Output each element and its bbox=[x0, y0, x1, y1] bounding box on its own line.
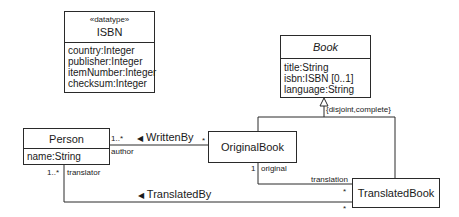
translatedby-person-role: translator bbox=[67, 168, 100, 177]
original-multiplicity: 1 bbox=[251, 164, 255, 173]
writtenby-label: WrittenBy bbox=[146, 131, 193, 143]
attribute: itemNumber:Integer bbox=[68, 67, 152, 78]
class-translatedbook-name: TranslatedBook bbox=[353, 179, 439, 200]
writtenby-originalbook-multiplicity: * bbox=[202, 136, 205, 145]
translation-multiplicity: * bbox=[343, 187, 346, 196]
class-translatedbook[interactable]: TranslatedBook bbox=[352, 178, 440, 208]
class-person-name: Person bbox=[24, 129, 109, 148]
attribute: title:String bbox=[284, 62, 368, 73]
writtenby-person-multiplicity: 1..* bbox=[111, 134, 123, 143]
class-originalbook-name: OriginalBook bbox=[209, 132, 296, 154]
attribute: isbn:ISBN [0..1] bbox=[284, 73, 368, 84]
class-isbn[interactable]: «datatype» ISBN country:Integer publishe… bbox=[64, 11, 155, 93]
class-person[interactable]: Person name:String bbox=[23, 128, 110, 165]
attribute: country:Integer bbox=[68, 45, 152, 56]
writtenby-association[interactable]: ◀ WrittenBy bbox=[137, 131, 194, 145]
original-role: original bbox=[261, 164, 287, 173]
generalization-constraint: {disjoint,complete} bbox=[326, 105, 391, 114]
class-originalbook[interactable]: OriginalBook bbox=[208, 131, 297, 163]
attribute: language:String bbox=[284, 84, 368, 95]
translatedby-translatedbook-multiplicity: * bbox=[343, 204, 346, 213]
class-isbn-attributes: country:Integer publisher:Integer itemNu… bbox=[65, 42, 154, 91]
attribute: name:String bbox=[27, 151, 107, 162]
attribute: publisher:Integer bbox=[68, 56, 152, 67]
attribute: checksum:Integer bbox=[68, 78, 152, 89]
class-book-attributes: title:String isbn:ISBN [0..1] language:S… bbox=[281, 58, 370, 97]
writtenby-person-role: author bbox=[111, 147, 134, 156]
translation-role: translation bbox=[311, 175, 348, 184]
class-book-name: Book bbox=[281, 36, 370, 58]
direction-arrow-icon: ◀ bbox=[137, 134, 143, 143]
class-person-attributes: name:String bbox=[24, 148, 109, 164]
class-isbn-stereotype: «datatype» bbox=[65, 12, 154, 25]
direction-arrow-icon: ◀ bbox=[138, 191, 144, 200]
class-isbn-name: ISBN bbox=[65, 25, 154, 42]
translatedby-association[interactable]: ◀ TranslatedBy bbox=[138, 188, 211, 202]
translatedby-label: TranslatedBy bbox=[147, 188, 211, 200]
translatedby-person-multiplicity: 1..* bbox=[47, 168, 59, 177]
uml-class-diagram: «datatype» ISBN country:Integer publishe… bbox=[0, 0, 459, 217]
class-book[interactable]: Book title:String isbn:ISBN [0..1] langu… bbox=[280, 35, 371, 98]
